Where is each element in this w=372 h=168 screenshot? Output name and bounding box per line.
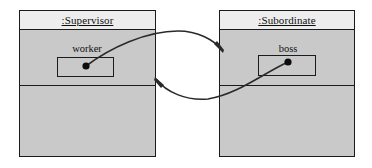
supervisor-compartment-divider (20, 85, 155, 86)
object-box-supervisor[interactable]: :Supervisor (19, 10, 156, 157)
boss-slot-rect[interactable] (258, 55, 316, 76)
supervisor-header: :Supervisor (20, 11, 155, 30)
supervisor-name-label: :Supervisor (62, 15, 114, 26)
subordinate-compartment-divider (220, 85, 354, 86)
uml-object-diagram: :Supervisor worker :Subordinate boss (0, 0, 372, 168)
subordinate-header: :Subordinate (220, 11, 354, 30)
subordinate-name-label: :Subordinate (258, 15, 315, 26)
worker-slot-rect[interactable] (57, 57, 114, 77)
worker-slot-label: worker (63, 44, 111, 55)
object-box-subordinate[interactable]: :Subordinate (219, 10, 355, 157)
boss-slot-label: boss (266, 44, 310, 55)
